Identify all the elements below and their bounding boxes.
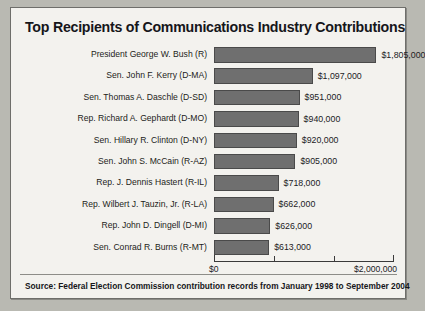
x-axis-tick-label-min: $0: [209, 264, 219, 274]
bar: [214, 218, 270, 234]
bar-category-label: Rep. J. Dennis Hastert (R-IL): [29, 177, 207, 187]
bar: [214, 175, 279, 191]
bar-track: $1,097,000: [214, 68, 397, 84]
bar: [214, 90, 300, 106]
bar-value-label: $662,000: [279, 199, 316, 209]
x-axis-left-cap: [214, 255, 215, 262]
chart-card: Top Recipients of Communications Industr…: [10, 7, 406, 299]
bar-row: President George W. Bush (R)$1,805,000: [25, 46, 397, 67]
bar-row: Sen. Hillary R. Clinton (D-NY)$920,000: [25, 132, 397, 153]
bar-track: $940,000: [214, 111, 397, 127]
bar-value-label: $613,000: [274, 242, 311, 252]
x-axis-tick: [334, 256, 335, 262]
bar-rows-container: President George W. Bush (R)$1,805,000Se…: [25, 46, 397, 260]
bar-value-label: $951,000: [305, 92, 342, 102]
x-axis-tick: [274, 256, 275, 262]
bar-category-label: Rep. Richard A. Gephardt (D-MO): [29, 113, 207, 123]
x-axis-tick-label-max: $2,000,000: [354, 264, 397, 274]
source-note: Source: Federal Election Commission cont…: [25, 281, 410, 291]
x-axis-right-cap: [393, 255, 394, 262]
bar-track: $1,805,000: [214, 47, 397, 63]
bar: [214, 47, 376, 63]
bar-row: Rep. Wilbert J. Tauzin, Jr. (R-LA)$662,0…: [25, 196, 397, 217]
chart-title: Top Recipients of Communications Industr…: [25, 19, 397, 35]
bar: [214, 111, 299, 127]
bar-category-label: Rep. John D. Dingell (D-MI): [29, 220, 207, 230]
bar-row: Sen. Thomas A. Daschle (D-SD)$951,000: [25, 89, 397, 110]
bar-track: $951,000: [214, 90, 397, 106]
bar-category-label: Sen. Conrad R. Burns (R-MT): [29, 242, 207, 252]
bar-category-label: Sen. John F. Kerry (D-MA): [29, 70, 207, 80]
source-divider: [20, 274, 397, 275]
bar-track: $718,000: [214, 175, 397, 191]
bar-category-label: Sen. Hillary R. Clinton (D-NY): [29, 135, 207, 145]
bar-value-label: $1,805,000: [381, 50, 425, 60]
bar-row: Sen. John F. Kerry (D-MA)$1,097,000: [25, 67, 397, 88]
bar-value-label: $718,000: [284, 178, 321, 188]
bar: [214, 197, 274, 213]
bar-track: $905,000: [214, 154, 397, 170]
bar-track: $662,000: [214, 197, 397, 213]
bar-category-label: Sen. John S. McCain (R-AZ): [29, 156, 207, 166]
bar-row: Sen. John S. McCain (R-AZ)$905,000: [25, 153, 397, 174]
bar-track: $920,000: [214, 133, 397, 149]
bar-category-label: Sen. Thomas A. Daschle (D-SD): [29, 92, 207, 102]
bar-value-label: $905,000: [300, 156, 337, 166]
bar-row: Rep. John D. Dingell (D-MI)$626,000: [25, 217, 397, 238]
bar-value-label: $940,000: [304, 114, 341, 124]
bar-row: Rep. J. Dennis Hastert (R-IL)$718,000: [25, 174, 397, 195]
bar: [214, 68, 313, 84]
bar: [214, 133, 297, 149]
bar-chart-plot-area: President George W. Bush (R)$1,805,000Se…: [25, 46, 397, 261]
bar-category-label: President George W. Bush (R): [29, 49, 207, 59]
x-axis-line: [214, 261, 394, 262]
bar-row: Rep. Richard A. Gephardt (D-MO)$940,000: [25, 110, 397, 131]
bar-category-label: Rep. Wilbert J. Tauzin, Jr. (R-LA): [29, 199, 207, 209]
bar-value-label: $1,097,000: [318, 71, 362, 81]
bar-value-label: $626,000: [275, 221, 312, 231]
bar-value-label: $920,000: [302, 135, 339, 145]
bar-track: $613,000: [214, 240, 397, 256]
bar-row: Sen. Conrad R. Burns (R-MT)$613,000: [25, 239, 397, 260]
bar: [214, 240, 269, 256]
bar: [214, 154, 295, 170]
bar-track: $626,000: [214, 218, 397, 234]
